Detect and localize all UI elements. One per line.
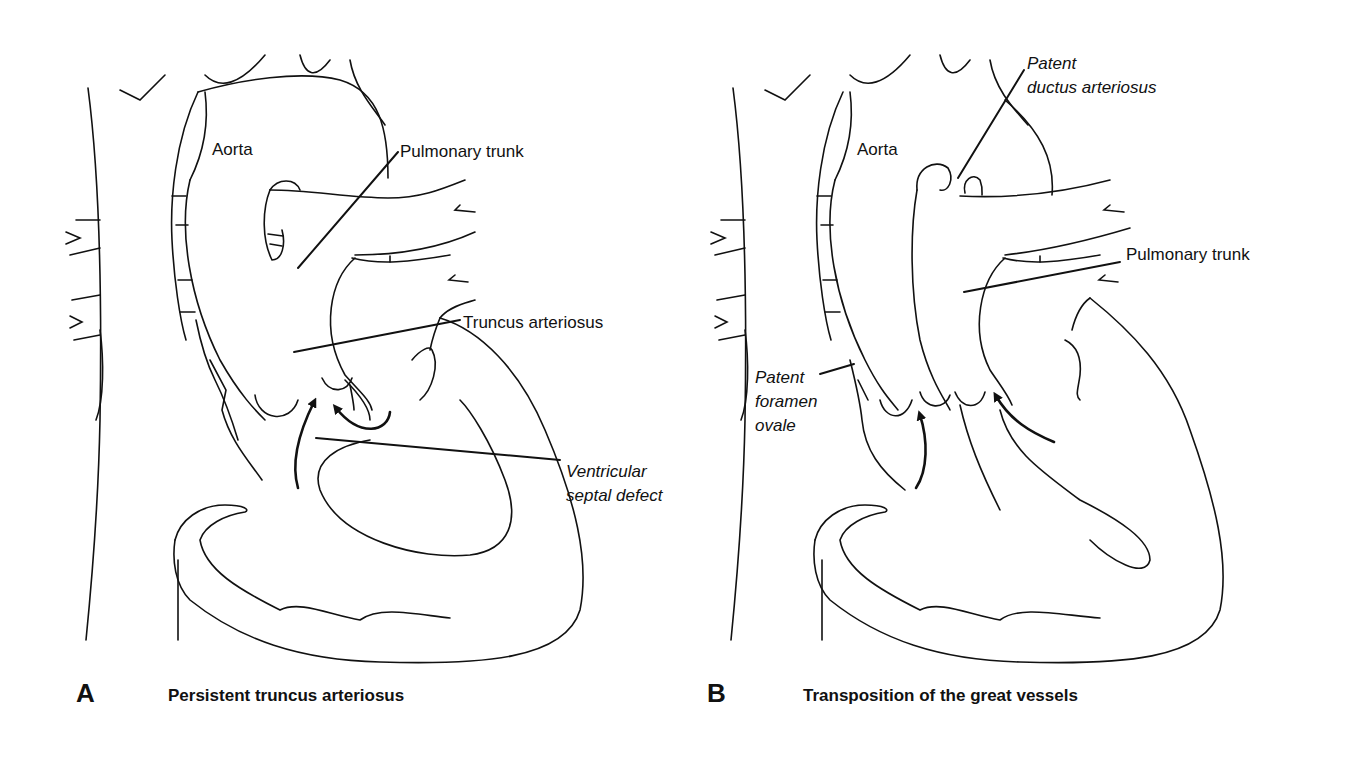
label-aorta-b: Aorta <box>857 140 898 160</box>
label-vsd-line1: Ventricular <box>566 462 647 482</box>
label-pfo-line2: foramen <box>755 392 817 412</box>
caption-a: Persistent truncus arteriosus <box>168 686 404 706</box>
label-pulmonary-trunk-b: Pulmonary trunk <box>1126 245 1250 265</box>
panel-letter-a: A <box>76 678 95 709</box>
panel-letter-b: B <box>707 678 726 709</box>
panel-b-drawing <box>711 55 1223 663</box>
caption-b: Transposition of the great vessels <box>803 686 1078 706</box>
label-pfo-line3: ovale <box>755 416 796 436</box>
label-pulmonary-trunk-a: Pulmonary trunk <box>400 142 524 162</box>
label-pda-line1: Patent <box>1027 54 1076 74</box>
label-pda-line2: ductus arteriosus <box>1027 78 1156 98</box>
label-pfo-line1: Patent <box>755 368 804 388</box>
label-truncus-arteriosus: Truncus arteriosus <box>463 313 603 333</box>
label-vsd-line2: septal defect <box>566 486 662 506</box>
label-aorta-a: Aorta <box>212 140 253 160</box>
heart-diagrams <box>0 0 1348 760</box>
